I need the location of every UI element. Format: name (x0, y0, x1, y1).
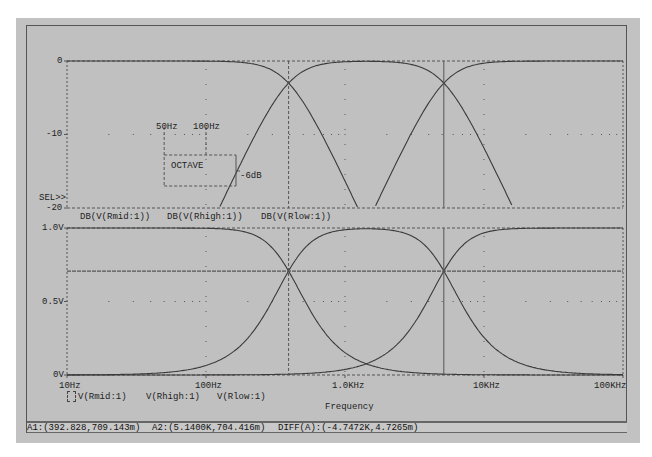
grid-dot (484, 251, 485, 252)
legend-top-rhigh[interactable]: DB(V(Rhigh:1)) (167, 212, 243, 222)
grid-dot (484, 326, 485, 327)
grid-dot (411, 301, 412, 302)
grid-dot (314, 301, 315, 302)
grid-dot (484, 281, 485, 282)
legend-bottom-rlow[interactable]: V(Rlow:1) (217, 392, 266, 402)
grid-dot (550, 301, 551, 302)
grid-dot (206, 174, 207, 175)
grid-dot (345, 84, 346, 85)
annotation-100hz[interactable]: 100Hz (193, 122, 220, 132)
grid-dot (581, 134, 582, 135)
trace-db-rhigh[interactable] (376, 61, 623, 206)
legend-bottom-rmid[interactable]: V(Rmid:1) (78, 392, 127, 402)
grid-dot (206, 296, 207, 297)
grid-dot (345, 99, 346, 100)
grid-dot (484, 114, 485, 115)
grid-dot (199, 301, 200, 302)
grid-dot (484, 301, 485, 302)
grid-dot (345, 189, 346, 190)
grid-dot (345, 159, 346, 160)
grid-dot (338, 301, 339, 302)
legend-top-rmid[interactable]: DB(V(Rmid:1)) (80, 212, 150, 222)
annotation-slope[interactable]: -6dB (240, 171, 262, 181)
grid-dot (206, 301, 207, 302)
grid-dot (484, 129, 485, 130)
grid-dot (192, 134, 193, 135)
grid-dot (184, 301, 185, 302)
grid-dot (484, 311, 485, 312)
grid-dot (303, 134, 304, 135)
y-tick-label-minus20db: -20 (46, 203, 62, 213)
grid-dot (386, 134, 387, 135)
grid-dot (386, 301, 387, 302)
x-axis-title: Frequency (325, 402, 374, 412)
y-tick-label-0v: 0V (53, 370, 64, 380)
grid-dot (484, 84, 485, 85)
x-tick-label-1khz: 1.0KHz (332, 381, 364, 391)
y-tick-label-1v: 1.0V (42, 223, 64, 233)
grid-dot (428, 301, 429, 302)
grid-dot (133, 301, 134, 302)
grid-dot (484, 371, 485, 372)
legend-bottom-rhigh[interactable]: V(Rhigh:1) (146, 392, 200, 402)
grid-dot (206, 159, 207, 160)
grid-dot (470, 134, 471, 135)
annotation-50hz[interactable]: 50Hz (156, 122, 178, 132)
trace-db-rmid[interactable] (220, 61, 512, 206)
grid-dot (428, 134, 429, 135)
grid-dot (206, 204, 207, 205)
grid-dot (345, 356, 346, 357)
waveform-plot[interactable] (0, 0, 652, 457)
grid-dot (289, 134, 290, 135)
grid-dot (303, 301, 304, 302)
grid-dot (206, 281, 207, 282)
grid-dot (206, 311, 207, 312)
grid-dot (462, 134, 463, 135)
annotation-octave[interactable]: OCTAVE (171, 161, 203, 171)
grid-dot (247, 134, 248, 135)
grid-dot (206, 251, 207, 252)
grid-dot (484, 189, 485, 190)
grid-dot (338, 134, 339, 135)
grid-dot (484, 134, 485, 135)
grid-dot (345, 341, 346, 342)
grid-dot (484, 356, 485, 357)
grid-dot (616, 134, 617, 135)
grid-dot (133, 134, 134, 135)
x-tick-label-100hz: 100Hz (195, 381, 222, 391)
grid-dot (184, 134, 185, 135)
grid-dot (108, 301, 109, 302)
grid-dot (609, 301, 610, 302)
grid-dot (206, 371, 207, 372)
grid-dot (484, 341, 485, 342)
grid-dot (345, 134, 346, 135)
grid-dot (345, 69, 346, 70)
y-tick-label-0db: 0 (57, 56, 62, 66)
grid-dot (592, 301, 593, 302)
grid-dot (323, 134, 324, 135)
grid-dot (206, 266, 207, 267)
grid-dot (601, 134, 602, 135)
grid-dot (331, 301, 332, 302)
grid-dot (192, 301, 193, 302)
y-tick-label-0-5v: 0.5V (42, 297, 64, 307)
grid-dot (453, 301, 454, 302)
legend-top-rlow[interactable]: DB(V(Rlow:1)) (261, 212, 331, 222)
grid-dot (345, 144, 346, 145)
grid-dot (484, 144, 485, 145)
grid-dot (592, 134, 593, 135)
grid-dot (550, 134, 551, 135)
grid-dot (484, 159, 485, 160)
grid-dot (525, 134, 526, 135)
cursor-diff-readout: DIFF(A):(-4.7472K,4.7265m) (278, 423, 418, 433)
grid-dot (206, 99, 207, 100)
x-tick-label-10khz: 10KHz (473, 381, 500, 391)
grid-dot (484, 174, 485, 175)
grid-dot (484, 266, 485, 267)
grid-dot (484, 69, 485, 70)
legend-selection-box[interactable] (67, 391, 76, 402)
grid-dot (314, 134, 315, 135)
grid-dot (345, 301, 346, 302)
grid-dot (345, 281, 346, 282)
grid-dot (484, 296, 485, 297)
